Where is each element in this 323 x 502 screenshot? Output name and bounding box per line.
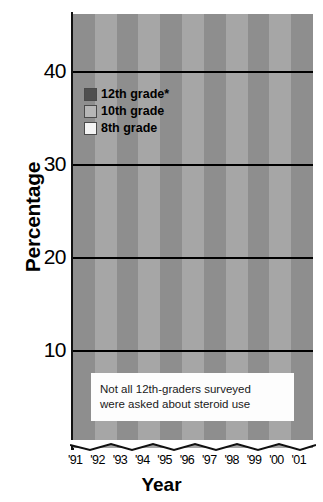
x-tick-01: '01	[288, 453, 310, 471]
legend-swatch-10th	[84, 105, 97, 118]
legend-label-8th: 8th grade	[101, 120, 157, 137]
legend-item-12th: 12th grade*	[84, 86, 169, 103]
gridline-10	[73, 350, 313, 352]
x-axis-tick-labels: '91 '92 '93 '94 '95 '96 '97 '98 '99 '00 …	[64, 453, 310, 471]
legend-label-12th: 12th grade*	[101, 86, 169, 103]
torn-bottom-edge	[70, 440, 316, 454]
x-tick-93: '93	[109, 453, 131, 471]
stripe-band	[291, 12, 313, 448]
gridline-40	[73, 71, 313, 73]
x-tick-97: '97	[198, 453, 220, 471]
legend-swatch-8th	[84, 122, 97, 135]
x-tick-99: '99	[243, 453, 265, 471]
y-axis-tick-labels: 40 30 20 10	[14, 0, 66, 502]
legend-swatch-12th	[84, 88, 97, 101]
gridline-20	[73, 257, 313, 259]
legend-label-10th: 10th grade	[101, 103, 164, 120]
chart-root: Percentage 40 30 20 10 12th grade* 10th …	[0, 0, 323, 502]
legend-item-8th: 8th grade	[84, 120, 169, 137]
x-tick-91: '91	[64, 453, 86, 471]
y-tick-10: 10	[24, 338, 66, 362]
legend: 12th grade* 10th grade 8th grade	[84, 86, 169, 137]
x-tick-92: '92	[86, 453, 108, 471]
footnote-box: Not all 12th-graders surveyed were asked…	[91, 373, 294, 421]
y-tick-30: 30	[24, 152, 66, 176]
footnote-line-2: were asked about steroid use	[100, 397, 285, 412]
gridline-30	[73, 164, 313, 166]
x-tick-00: '00	[265, 453, 287, 471]
x-axis-title: Year	[0, 474, 323, 496]
footnote-line-1: Not all 12th-graders surveyed	[100, 382, 285, 397]
x-tick-94: '94	[131, 453, 153, 471]
y-tick-40: 40	[24, 59, 66, 83]
x-tick-98: '98	[221, 453, 243, 471]
y-tick-20: 20	[24, 245, 66, 269]
x-tick-96: '96	[176, 453, 198, 471]
legend-item-10th: 10th grade	[84, 103, 169, 120]
x-tick-95: '95	[153, 453, 175, 471]
torn-top-edge	[73, 0, 313, 14]
